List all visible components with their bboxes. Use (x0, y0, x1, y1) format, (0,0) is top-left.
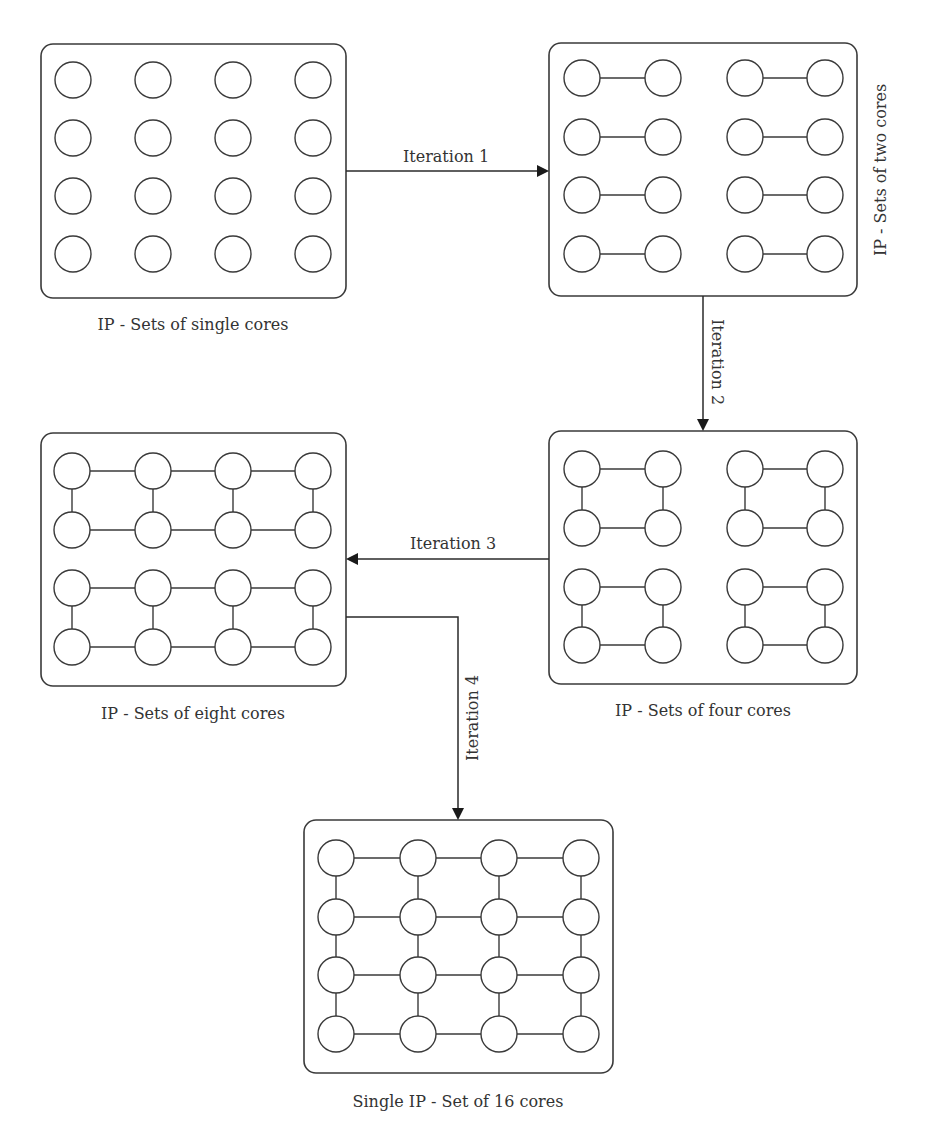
arrow-iteration-1: Iteration 1 (346, 147, 549, 177)
panel-sixteen-cores: Single IP - Set of 16 cores (304, 820, 613, 1111)
ip-clustering-diagram: IP - Sets of single cores IP - Sets of t… (0, 0, 925, 1126)
arrow-label: Iteration 3 (410, 534, 496, 553)
panel-single-cores: IP - Sets of single cores (41, 44, 346, 334)
panel-two-cores: IP - Sets of two cores (549, 43, 890, 296)
arrow-iteration-3: Iteration 3 (346, 534, 549, 565)
arrow-label: Iteration 2 (708, 319, 727, 405)
panel-caption: IP - Sets of eight cores (101, 704, 285, 723)
arrow-label: Iteration 4 (463, 675, 482, 761)
panel-caption: IP - Sets of single cores (98, 315, 289, 334)
panel-caption: Single IP - Set of 16 cores (353, 1092, 564, 1111)
panel-eight-cores: IP - Sets of eight cores (41, 433, 346, 723)
arrowhead-right-icon (537, 165, 549, 177)
panel-caption: IP - Sets of two cores (871, 84, 890, 256)
arrowhead-down-icon (697, 419, 709, 431)
panel-four-cores: IP - Sets of four cores (549, 431, 857, 720)
arrow-iteration-2: Iteration 2 (697, 296, 727, 431)
arrow-label: Iteration 1 (403, 147, 489, 166)
panel-caption: IP - Sets of four cores (615, 701, 791, 720)
arrowhead-down-icon (452, 808, 464, 820)
arrow-iteration-4: Iteration 4 (346, 617, 482, 820)
arrowhead-left-icon (346, 553, 358, 565)
